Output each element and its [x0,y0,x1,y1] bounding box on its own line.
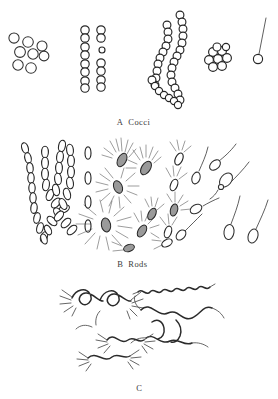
panel-b-name: Rods [128,259,147,269]
figure-plate: .cell{fill:#ffffff;stroke:#2f2f2f;stroke… [0,0,278,399]
panel-b-letter: B [117,259,123,269]
panel-label-c: C [131,373,142,393]
panel-a-name: Cocci [128,117,150,127]
panel-label-a: ACocci [112,107,150,127]
panel-c-letter: C [136,383,142,393]
panel-label-b: BRods [112,249,148,269]
bacteria-illustration: .cell{fill:#ffffff;stroke:#2f2f2f;stroke… [0,0,278,399]
panel-a-letter: A [117,117,124,127]
